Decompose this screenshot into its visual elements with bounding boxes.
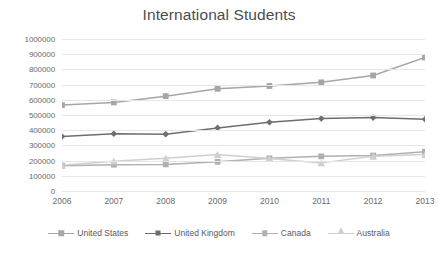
series-data-point	[266, 119, 273, 126]
legend-triangle-icon	[328, 228, 354, 238]
legend-square-icon	[252, 228, 278, 238]
x-axis-tick-label: 2013	[416, 196, 435, 206]
y-axis: 1000000900000800000700000600000500000400…	[0, 33, 57, 197]
series-data-point	[370, 73, 376, 79]
gridline	[62, 176, 425, 177]
series-data-point	[163, 162, 169, 168]
y-axis-tick-label: 200000	[29, 156, 55, 165]
x-axis: 20062007200820092010201120122013	[62, 196, 425, 212]
series-data-point	[422, 55, 425, 61]
gridline	[62, 100, 425, 101]
gridline	[62, 115, 425, 116]
x-axis-tick-label: 2007	[104, 196, 123, 206]
y-axis-tick-label: 300000	[29, 141, 55, 150]
series-data-point	[318, 115, 325, 122]
y-axis-tick-label: 0	[51, 187, 55, 196]
y-axis-tick-label: 100000	[29, 171, 55, 180]
y-axis-tick-label: 1000000	[25, 35, 55, 44]
y-axis-tick-label: 400000	[29, 126, 55, 135]
chart-series	[62, 114, 425, 139]
series-data-point	[215, 86, 221, 92]
legend-label: Canada	[281, 228, 311, 238]
series-data-point	[111, 130, 118, 137]
gridline	[62, 69, 425, 70]
series-data-point	[163, 93, 169, 99]
legend-diamond-icon	[145, 228, 171, 238]
x-axis-tick-label: 2009	[208, 196, 227, 206]
series-data-point	[62, 102, 65, 108]
chart-title: International Students	[0, 6, 438, 24]
legend-item[interactable]: Australia	[328, 228, 390, 238]
y-axis-tick-label: 500000	[29, 111, 55, 120]
legend-label: Australia	[357, 228, 390, 238]
gridline	[62, 161, 425, 162]
gridline	[62, 130, 425, 131]
legend-item[interactable]: United States	[48, 228, 128, 238]
gridline	[62, 191, 425, 192]
gridline	[62, 85, 425, 86]
legend-label: United States	[77, 228, 128, 238]
series-line	[62, 58, 425, 106]
series-data-point	[318, 153, 324, 159]
legend-item[interactable]: United Kingdom	[145, 228, 234, 238]
x-axis-tick-label: 2006	[53, 196, 72, 206]
legend-label: United Kingdom	[174, 228, 234, 238]
y-axis-tick-label: 700000	[29, 80, 55, 89]
series-data-point	[62, 133, 65, 140]
series-data-point	[162, 131, 169, 138]
y-axis-tick-label: 900000	[29, 50, 55, 59]
chart-container: International Students 10000009000008000…	[0, 0, 438, 256]
x-axis-tick-label: 2012	[364, 196, 383, 206]
gridline	[62, 54, 425, 55]
gridline	[62, 145, 425, 146]
x-axis-tick-label: 2010	[260, 196, 279, 206]
chart-legend: United StatesUnited KingdomCanadaAustral…	[0, 228, 438, 238]
series-data-point	[422, 116, 425, 123]
plot-area	[62, 39, 425, 191]
x-axis-tick-label: 2011	[312, 196, 330, 206]
gridline	[62, 39, 425, 40]
x-axis-tick-label: 2008	[156, 196, 175, 206]
y-axis-tick-label: 800000	[29, 65, 55, 74]
legend-square-icon	[48, 228, 74, 238]
legend-item[interactable]: Canada	[252, 228, 311, 238]
y-axis-tick-label: 600000	[29, 95, 55, 104]
